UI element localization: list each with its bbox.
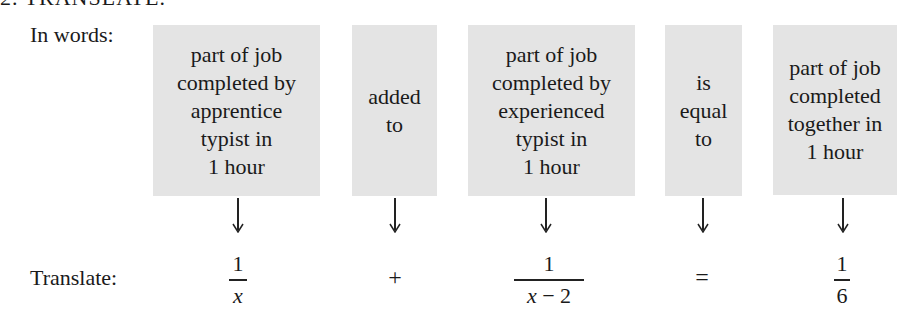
word-box-equal-to: is equal to xyxy=(665,25,742,196)
plus-sign: + xyxy=(385,264,405,291)
section-heading: 2. TRANSLATE. xyxy=(0,0,166,11)
word-box-text: part of job completed by experienced typ… xyxy=(492,41,611,181)
down-arrow-icon xyxy=(837,196,849,234)
word-box-text: part of job completed together in 1 hour xyxy=(788,54,883,166)
equals-sign: = xyxy=(692,264,712,291)
word-box-text: part of job completed by apprentice typi… xyxy=(177,41,296,181)
denominator: 6 xyxy=(837,281,848,308)
denominator-variable: x xyxy=(527,283,537,308)
word-box-apprentice: part of job completed by apprentice typi… xyxy=(153,25,320,196)
fraction-one-over-x: 1 x xyxy=(229,252,247,308)
numerator: 1 xyxy=(544,252,555,279)
translate-label: Translate: xyxy=(30,265,117,291)
denominator: x xyxy=(233,281,243,308)
denominator-rest: − 2 xyxy=(537,283,571,308)
numerator: 1 xyxy=(837,252,848,279)
numerator: 1 xyxy=(233,252,244,279)
down-arrow-icon xyxy=(697,196,709,234)
word-box-experienced: part of job completed by experienced typ… xyxy=(468,25,635,196)
word-box-text: is equal to xyxy=(680,69,728,153)
down-arrow-icon xyxy=(232,196,244,234)
down-arrow-icon xyxy=(389,196,401,234)
fraction-one-over-x-minus-2: 1 x − 2 xyxy=(514,252,584,308)
denominator: x − 2 xyxy=(527,281,571,308)
down-arrow-icon xyxy=(540,196,552,234)
word-box-added-to: added to xyxy=(352,25,437,196)
in-words-label: In words: xyxy=(30,22,114,48)
word-box-text: added to xyxy=(368,83,421,139)
fraction-one-over-six: 1 6 xyxy=(834,252,850,308)
word-box-together: part of job completed together in 1 hour xyxy=(773,25,897,195)
